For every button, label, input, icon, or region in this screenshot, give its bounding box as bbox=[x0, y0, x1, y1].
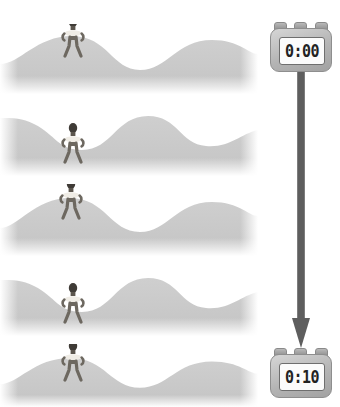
time-arrow bbox=[292, 70, 310, 350]
wave-frame-4 bbox=[0, 264, 258, 336]
illustration-canvas: 0:00 0:10 bbox=[0, 0, 340, 407]
wave-frame-1 bbox=[0, 24, 258, 94]
wave-frame-2 bbox=[0, 104, 258, 176]
athlete-figure-3 bbox=[54, 184, 88, 220]
stopwatch-case-start: 0:00 bbox=[270, 28, 332, 72]
athlete-figure-2 bbox=[56, 122, 90, 164]
athlete-figure-4 bbox=[56, 282, 90, 324]
wave-frame-stack bbox=[0, 0, 258, 407]
athlete-figure-1 bbox=[56, 24, 90, 58]
stopwatch-case-end: 0:10 bbox=[270, 354, 332, 398]
stopwatch-start-digits: 0:00 bbox=[285, 43, 319, 60]
stopwatch-end: 0:10 bbox=[270, 348, 332, 398]
stopwatch-end-digits: 0:10 bbox=[285, 369, 319, 386]
stopwatch-screen-start: 0:00 bbox=[279, 37, 325, 65]
wave-frame-3 bbox=[0, 184, 258, 256]
stopwatch-screen-end: 0:10 bbox=[279, 363, 325, 391]
wave-frame-5 bbox=[0, 344, 258, 407]
timeline-column: 0:00 0:10 bbox=[258, 0, 340, 407]
athlete-figure-5 bbox=[56, 344, 90, 382]
stopwatch-start: 0:00 bbox=[270, 22, 332, 72]
